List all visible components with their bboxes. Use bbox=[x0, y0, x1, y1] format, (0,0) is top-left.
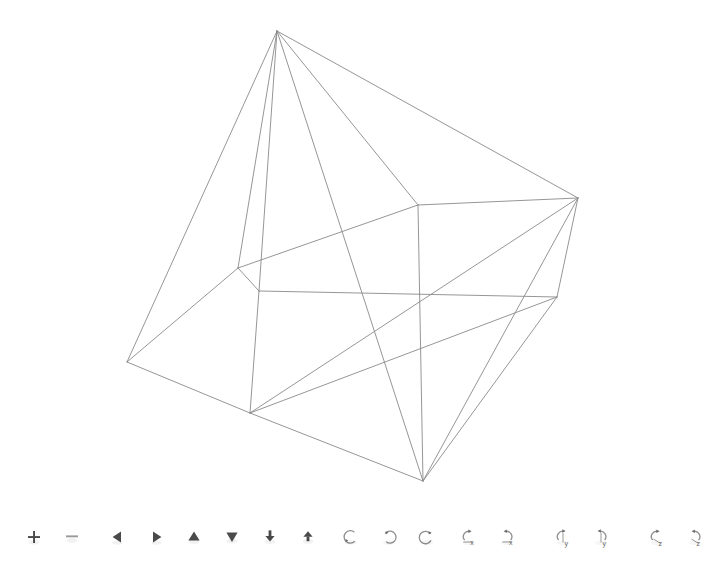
wireframe-edge bbox=[127, 362, 250, 413]
wireframe-edge bbox=[418, 205, 423, 481]
triangle-down-icon bbox=[222, 527, 242, 547]
wireframe-edge bbox=[238, 205, 418, 268]
pan-right-button[interactable] bbox=[143, 524, 169, 550]
rotate-arc-right-icon bbox=[378, 526, 400, 548]
move-fwd-button[interactable] bbox=[295, 524, 321, 550]
polyhedron-wireframe-canvas[interactable] bbox=[0, 0, 710, 500]
rotate-axis-icon: x bbox=[496, 526, 518, 548]
move-back-button[interactable] bbox=[257, 524, 283, 550]
viewer-toolbar: x x y bbox=[0, 500, 710, 574]
wireframe-edge bbox=[250, 413, 423, 481]
rotate-axis-icon: y bbox=[552, 526, 574, 548]
arrow-up-to-bar-icon bbox=[298, 527, 318, 547]
axis-rotation-group: x x y bbox=[454, 524, 710, 550]
rotate-axis-icon: z bbox=[684, 526, 706, 548]
rotate-z-pos-button[interactable]: z bbox=[644, 524, 670, 550]
wireframe-edge bbox=[418, 198, 578, 205]
pan-down-button[interactable] bbox=[219, 524, 245, 550]
wireframe-edge bbox=[423, 297, 557, 481]
wireframe-svg bbox=[0, 0, 710, 500]
zoom-group bbox=[19, 524, 87, 550]
triangle-left-icon bbox=[108, 527, 128, 547]
orbit-ccw-button[interactable] bbox=[338, 524, 364, 550]
rotate-arc-left-icon bbox=[340, 526, 362, 548]
wireframe-edge bbox=[277, 31, 423, 481]
wireframe-edge bbox=[127, 268, 238, 362]
rotate-y-neg-button[interactable]: y bbox=[588, 524, 614, 550]
wireframe-edge bbox=[557, 198, 578, 297]
zoom-out-button[interactable] bbox=[59, 524, 85, 550]
wireframe-edge bbox=[127, 31, 277, 362]
pan-group bbox=[103, 524, 323, 550]
triangle-up-icon bbox=[184, 527, 204, 547]
orbit-reset-button[interactable] bbox=[414, 524, 440, 550]
rotate-z-neg-button[interactable]: z bbox=[682, 524, 708, 550]
wireframe-edge bbox=[250, 291, 259, 413]
plus-icon bbox=[24, 527, 44, 547]
polyhedron-viewer-app: x x y bbox=[0, 0, 710, 574]
wireframe-edge bbox=[238, 268, 259, 291]
pan-left-button[interactable] bbox=[105, 524, 131, 550]
wireframe-edge bbox=[259, 31, 277, 291]
pan-up-button[interactable] bbox=[181, 524, 207, 550]
wireframe-edge bbox=[259, 291, 557, 297]
wireframe-edge bbox=[250, 198, 578, 413]
triangle-right-icon bbox=[146, 527, 166, 547]
zoom-in-button[interactable] bbox=[21, 524, 47, 550]
rotate-loop-icon bbox=[416, 526, 438, 548]
arrow-down-to-bar-icon bbox=[260, 527, 280, 547]
rotate-x-pos-button[interactable]: x bbox=[456, 524, 482, 550]
rotate-axis-icon: y bbox=[590, 526, 612, 548]
rotate-y-pos-button[interactable]: y bbox=[550, 524, 576, 550]
wireframe-edge bbox=[277, 31, 418, 205]
wireframe-edge bbox=[277, 31, 578, 198]
orbit-group bbox=[336, 524, 442, 550]
rotate-x-neg-button[interactable]: x bbox=[494, 524, 520, 550]
wireframe-edge bbox=[238, 31, 277, 268]
wireframe-edge-layer bbox=[127, 31, 578, 481]
wireframe-edge bbox=[423, 198, 578, 481]
minus-icon bbox=[62, 527, 82, 547]
rotate-axis-icon: x bbox=[458, 526, 480, 548]
orbit-cw-button[interactable] bbox=[376, 524, 402, 550]
wireframe-edge bbox=[250, 297, 557, 413]
rotate-axis-icon: z bbox=[646, 526, 668, 548]
